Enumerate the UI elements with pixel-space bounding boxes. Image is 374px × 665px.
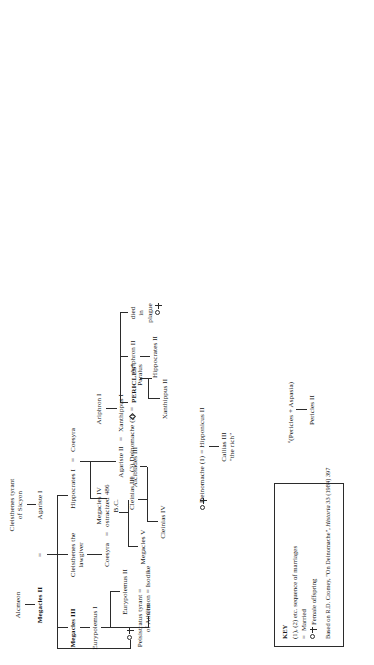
key-row-married-label: Married	[300, 609, 307, 631]
connector-ariphron2-hippocrates2	[140, 356, 150, 357]
node-cleisthenes-the-lawgiver: Cleisthenes the lawgiver	[69, 533, 86, 578]
chart-rotation-wrapper: Alcmeon Megacles II Cleisthenes tyrant o…	[0, 0, 374, 665]
connector-to-eurypolemus2	[110, 591, 120, 592]
connector-to-cleisthenes-lawgiver	[57, 554, 68, 555]
node-died-in-plague: died in plague	[129, 303, 154, 323]
connector-to-paralus	[148, 378, 152, 379]
connector-ariphron1-xanthippus1	[106, 408, 117, 409]
connector-eurypolemus1-children-bar	[110, 592, 111, 628]
marriage-symbol-hippocrates1-coesyra: =	[69, 458, 77, 462]
node-eurypolemus-ii: Eurypolemus II	[121, 569, 129, 615]
node-eurypolemus-i: Eurypolemus I	[91, 606, 99, 649]
node-ariphron-ii: Ariphron II	[129, 340, 137, 374]
key-legend-box: KEY (1), (2) etc. sequence of marriages …	[274, 483, 344, 647]
key-source-citation: Based on R.D. Cromey, "On Deinomache", H…	[323, 491, 332, 639]
married-symbol-icon: =	[299, 631, 308, 639]
key-row-married: =Married	[299, 491, 308, 639]
connector-deinomache1-callias3	[209, 446, 219, 447]
node-hippocrates-i: Hippocrates I	[69, 469, 77, 509]
connector-to-megacles5	[128, 546, 138, 547]
node-xanthippus-i: Xanthippus I	[117, 394, 125, 432]
connector-sibling-bar-1	[57, 496, 58, 628]
node-coesyra-left: Coesyra	[103, 543, 111, 567]
connector-cleisthenes-coesyra	[87, 554, 102, 555]
female-offspring-icon-legend	[310, 626, 318, 639]
key-title: KEY	[280, 491, 289, 639]
key-source-suffix: 33 (1984) 397	[324, 468, 331, 506]
connector-to-agariste2	[90, 461, 116, 462]
connector-to-megacles3	[57, 627, 68, 628]
node-xanthippus-ii: Xanthippus II	[161, 379, 169, 420]
connector-cimon-horizontal	[148, 616, 149, 628]
connector-eurypolemus1-drop	[101, 627, 110, 628]
connector-peisistratus-horizontal	[130, 640, 131, 649]
marriage-symbol-coesyra-megacles4: =	[103, 532, 111, 536]
connector-alcmeon-megacles2	[25, 604, 35, 605]
node-megacles-ii: Megacles II	[36, 587, 44, 623]
connector-to-peisistratus-branch	[57, 628, 58, 649]
connector-hippocrates1-children-bar	[90, 462, 91, 499]
female-offspring-icon-died-in-plague	[155, 302, 163, 315]
node-deinomache-1-hipponicus-ii: Deinomache (1) = Hipponicus II	[198, 407, 206, 503]
key-row-female-offspring-label: Female offspring	[309, 579, 318, 626]
connector-hippocrates1-drop	[80, 461, 90, 462]
connector-bar-to-died-in-plague	[120, 312, 128, 313]
connector-pericles-aspasia-pericles2	[296, 409, 307, 410]
connector-cleinias3-drop	[138, 499, 147, 500]
node-pericles-ii: Pericles II	[308, 395, 316, 425]
connector-to-hippocrates1	[57, 495, 68, 496]
connector-to-xanthippus2	[148, 398, 160, 399]
node-cimon-isodike: Cimon = Isodike	[144, 566, 152, 615]
key-row-female-offspring: Female offspring	[309, 491, 318, 639]
node-megacles-iv: Megacles IV ostracized 486 B.C.	[95, 484, 120, 527]
connector-marriage-drop-1	[47, 554, 57, 555]
connector-bar-to-pericles	[120, 402, 128, 403]
connector-to-cleinias4	[147, 521, 158, 522]
node-coesyra-top: Coesyra	[69, 428, 77, 452]
connector-pericles-children-bar	[148, 379, 149, 399]
connector-cleisthenes-agariste1	[27, 504, 36, 505]
node-agariste-ii: Agariste II	[117, 446, 125, 478]
node-megacles-iii: Megacles III	[69, 608, 77, 647]
female-offspring-icon-peisistratus-wife	[127, 627, 135, 640]
connector-bar-to-ariphron2	[120, 356, 128, 357]
key-source-prefix: Based on R.D. Cromey, "On Deinomache",	[324, 527, 331, 639]
node-agariste-i: Agariste I	[36, 490, 44, 519]
node-ariphron-i: Ariphron I	[95, 393, 103, 424]
connector-xanthippus1-children-bar	[120, 313, 121, 403]
key-source-journal: Historia	[324, 505, 331, 526]
connector-to-megacles4-left	[90, 498, 107, 499]
node-pericles-aspasia: a(Pericles + Aspasia)	[285, 382, 296, 443]
connector-to-cimon-branch	[110, 627, 148, 628]
marriage-symbol-deinomache-pericles: =	[128, 407, 136, 411]
node-pericles-aspasia-footnote-marker: a	[286, 441, 291, 443]
family-tree-canvas: Alcmeon Megacles II Cleisthenes tyrant o…	[0, 0, 374, 665]
connector-megacles3-eurypolemus1	[80, 627, 90, 628]
node-hippocrates-ii: Hippocrates II	[151, 336, 159, 378]
connector-to-alcibiades3	[140, 466, 147, 467]
key-row-marriage-sequence: (1), (2) etc. sequence of marriages	[290, 491, 299, 639]
node-cleinias-iv: Cleinias IV	[159, 505, 167, 539]
node-cleisthenes-of-sicyon: Cleisthenes tyrant of Sicyon	[8, 479, 25, 532]
marriage-symbol-agariste2-xanthippus1: =	[117, 437, 125, 441]
node-callias-iii: Callias III "the rich"	[220, 432, 237, 462]
marriage-symbol-megacles2-agariste1: =	[36, 553, 44, 557]
node-alcmeon: Alcmeon	[14, 592, 22, 619]
connector-megacles4-drop	[119, 512, 128, 513]
connector-cleinias3-children-bar	[147, 467, 148, 522]
node-alcibiades-iii: Alcibiades III	[131, 447, 139, 488]
node-megacles-v: Megacles V	[139, 530, 147, 565]
node-pericles-aspasia-label: (Pericles + Aspasia)	[287, 382, 295, 441]
